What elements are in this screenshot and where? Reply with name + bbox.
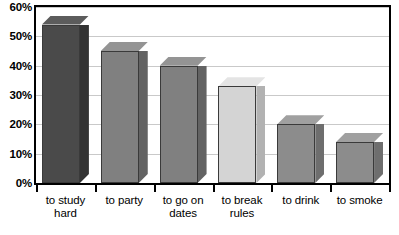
bar[interactable] xyxy=(277,124,315,183)
x-axis-label-line: hard xyxy=(36,207,95,220)
x-axis-tick xyxy=(213,185,215,192)
y-axis-tick-10: 10% xyxy=(0,148,32,160)
bar-front-face xyxy=(336,142,374,183)
x-axis-label-to-smoke: to smoke xyxy=(330,194,389,207)
bar-slot xyxy=(160,7,198,183)
bar-side-face xyxy=(256,86,265,183)
bar-side-face xyxy=(198,66,207,183)
y-axis-tick-30: 30% xyxy=(0,89,32,101)
bar-front-face xyxy=(42,25,80,183)
bar[interactable] xyxy=(42,25,80,183)
x-axis-tick xyxy=(154,185,156,192)
y-axis-tick-labels: 0%10%20%30%40%50%60% xyxy=(0,0,32,235)
bar-slot xyxy=(277,7,315,183)
x-axis-tick xyxy=(330,185,332,192)
y-axis-tick-50: 50% xyxy=(0,30,32,42)
x-axis-label-line: to break xyxy=(213,194,272,207)
x-axis-label-line: to party xyxy=(95,194,154,207)
bar[interactable] xyxy=(101,51,139,183)
x-axis-label-line: to drink xyxy=(271,194,330,207)
y-axis-tick-60: 60% xyxy=(0,1,32,13)
x-axis-tick xyxy=(36,185,38,192)
bar-chart: 0%10%20%30%40%50%60% to studyhardto part… xyxy=(0,0,399,235)
bar-top-face xyxy=(336,133,383,142)
x-axis-label-line: to study xyxy=(36,194,95,207)
bar-top-face xyxy=(277,115,324,124)
x-axis-tick xyxy=(389,185,391,192)
bar-side-face xyxy=(80,25,89,183)
bar-top-face xyxy=(42,16,89,25)
bar-top-face xyxy=(218,77,265,86)
bar-front-face xyxy=(277,124,315,183)
bar-series xyxy=(36,7,389,183)
x-axis-tick xyxy=(95,185,97,192)
bar-front-face xyxy=(160,66,198,183)
bar-slot xyxy=(101,7,139,183)
x-axis-label-to-break-rules: to breakrules xyxy=(213,194,272,219)
bar-side-face xyxy=(374,142,383,183)
y-axis-tick-0: 0% xyxy=(0,177,32,189)
bar[interactable] xyxy=(336,142,374,183)
x-axis-label-to-go-on-dates: to go ondates xyxy=(154,194,213,219)
x-axis-label-to-party: to party xyxy=(95,194,154,207)
bar-front-face xyxy=(218,86,256,183)
bar[interactable] xyxy=(160,66,198,183)
x-axis-tick xyxy=(271,185,273,192)
x-axis-label-line: to smoke xyxy=(330,194,389,207)
x-axis-label-to-study-hard: to studyhard xyxy=(36,194,95,219)
plot-border-right xyxy=(389,5,391,185)
x-axis-label-line: rules xyxy=(213,207,272,220)
x-axis-label-to-drink: to drink xyxy=(271,194,330,207)
bar[interactable] xyxy=(218,86,256,183)
x-axis-label-line: to go on xyxy=(154,194,213,207)
bar-top-face xyxy=(101,42,148,51)
x-axis-label-line: dates xyxy=(154,207,213,220)
bar-slot xyxy=(218,7,256,183)
bar-slot xyxy=(336,7,374,183)
bar-slot xyxy=(42,7,80,183)
plot-area xyxy=(34,5,391,185)
y-axis-tick-20: 20% xyxy=(0,118,32,130)
y-axis-tick-40: 40% xyxy=(0,60,32,72)
bar-side-face xyxy=(139,51,148,183)
bar-side-face xyxy=(315,124,324,183)
bar-front-face xyxy=(101,51,139,183)
bar-top-face xyxy=(160,57,207,66)
